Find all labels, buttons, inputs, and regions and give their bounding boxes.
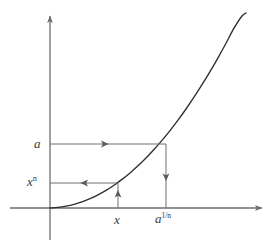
y-axis-label-a: a [34,137,41,150]
plot-canvas [0,0,274,247]
x-axis-label-x: x [114,213,120,226]
guide-x-to-curve [115,183,122,208]
label-x-base: x [114,212,120,227]
label-xn-exponent: n [33,174,37,183]
y-axis-label-x-power-n: xn [27,175,37,188]
guide-a-to-curve [50,141,166,148]
label-a-base: a [34,136,41,151]
x-axis-label-a-power-one-over-n: a1/n [155,212,171,225]
guide-curve-to-x-axis [163,144,170,208]
function-graph-figure: a xn x a1/n [0,0,274,247]
guide-curve-to-y-axis [50,180,118,187]
label-a1n-exponent: 1/n [162,211,172,220]
power-function-curve [50,13,246,208]
